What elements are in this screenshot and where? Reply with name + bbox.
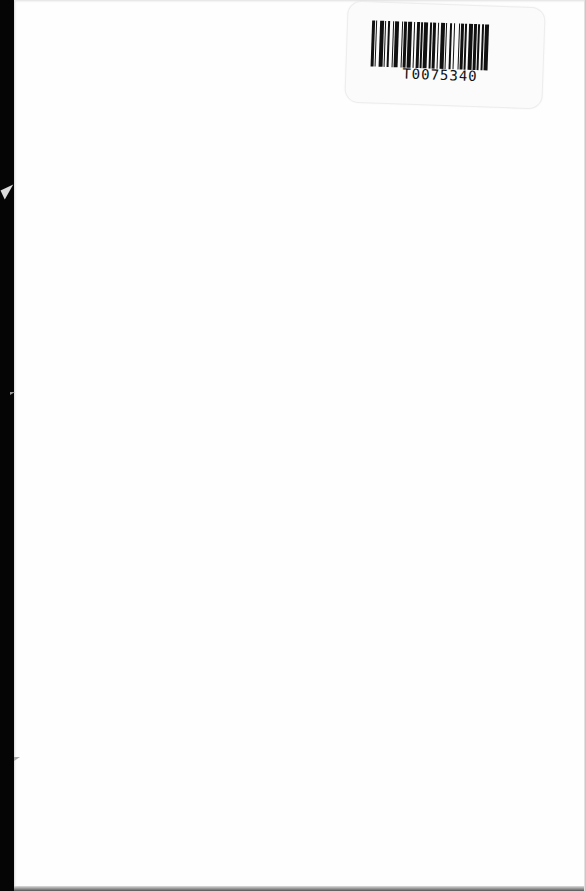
binding-edge [0,0,14,891]
page-tear-mark [10,392,15,395]
barcode-icon [371,20,523,71]
page-tear-mark [14,757,20,761]
page-bottom-edge [14,886,586,891]
barcode-gap [487,25,490,71]
barcode-sticker: T0075340 [344,1,545,110]
barcode-number: T0075340 [402,66,478,85]
blank-page [14,0,586,889]
